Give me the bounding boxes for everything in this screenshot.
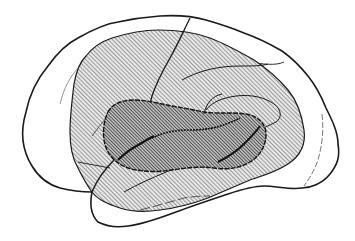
brain-illustration bbox=[0, 0, 355, 241]
brain-drawing bbox=[0, 0, 355, 241]
